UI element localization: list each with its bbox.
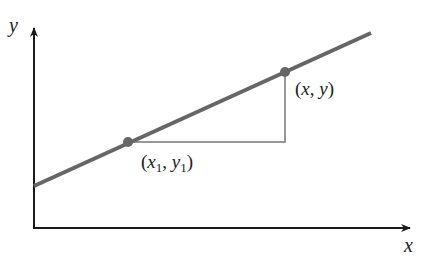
slope-diagram: y x (x, y) (x1, y1) (0, 0, 436, 263)
y-axis-label: y (7, 14, 18, 37)
x-axis-label: x (403, 234, 413, 256)
sloped-line (34, 33, 371, 186)
point-x1-y1-label: (x1, y1) (141, 151, 193, 175)
point-x1-y1 (123, 137, 133, 147)
point-x-y (280, 67, 290, 77)
point-x-y-label: (x, y) (295, 78, 334, 100)
